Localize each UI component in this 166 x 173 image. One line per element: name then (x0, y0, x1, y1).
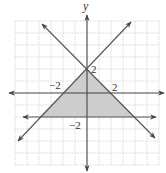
tick-label-x-neg-2: −2 (49, 79, 61, 91)
y-axis-label: y (82, 0, 89, 13)
tick-label-y-neg-2: −2 (69, 119, 81, 131)
tick-label-y-2: 2 (91, 63, 97, 75)
tick-label-x-2: 2 (112, 81, 118, 93)
coordinate-plane: y 2 2 −2 −2 (0, 0, 166, 173)
